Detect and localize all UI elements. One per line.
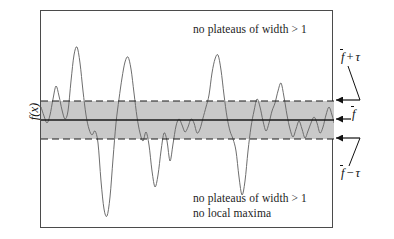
label-mean-fbar: f	[352, 107, 355, 122]
label-upper-tolerance: f+τ	[341, 50, 360, 65]
label-mean: f	[352, 107, 355, 122]
figure-container: f(x) no plateaus of width > 1 no plateau…	[0, 0, 394, 239]
annotation-bottom-plateaus: no plateaus of width > 1	[193, 192, 307, 204]
label-upper-operator: +	[344, 50, 355, 64]
label-upper-tau: τ	[356, 50, 360, 64]
leader-lower-tolerance	[349, 138, 360, 166]
label-lower-tolerance: f−τ	[341, 166, 360, 181]
label-lower-operator: −	[344, 166, 355, 180]
annotation-bottom-maxima: no local maxima	[193, 207, 271, 219]
label-lower-fbar: f	[341, 166, 344, 181]
label-upper-fbar: f	[341, 50, 344, 65]
plot-frame: no plateaus of width > 1 no plateaus of …	[40, 10, 333, 228]
label-lower-tau: τ	[356, 166, 360, 180]
annotation-top: no plateaus of width > 1	[193, 23, 307, 35]
leader-upper-tolerance	[348, 66, 360, 100]
